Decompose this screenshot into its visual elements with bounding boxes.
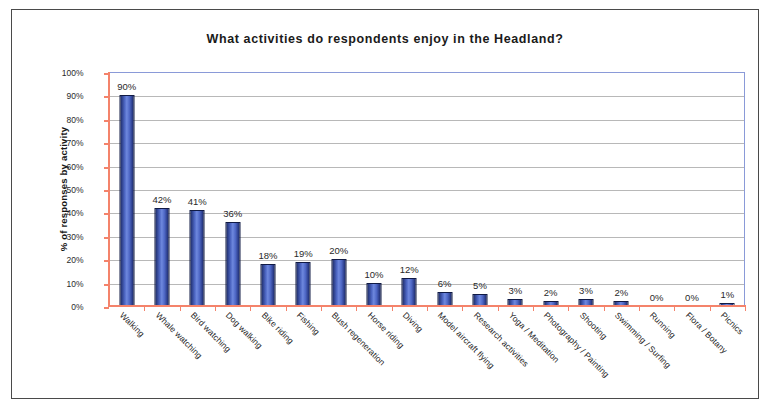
y-tick-label: 100% bbox=[62, 68, 84, 78]
chart-screenshot: What activities do respondents enjoy in … bbox=[0, 0, 770, 417]
plot-area: 100%90%80%70%60%50%40%30%20%10%0% 90%42%… bbox=[109, 72, 745, 306]
x-axis-line bbox=[108, 305, 746, 307]
bar-value-label: 18% bbox=[258, 250, 277, 261]
chart-title: What activities do respondents enjoy in … bbox=[12, 32, 758, 46]
x-category-label: Shooting bbox=[578, 310, 609, 341]
bar-slot[interactable]: 19% bbox=[286, 73, 321, 306]
bar[interactable] bbox=[225, 222, 240, 306]
y-tick-mark bbox=[104, 307, 109, 309]
bar-value-label: 36% bbox=[223, 208, 242, 219]
bar[interactable] bbox=[190, 210, 205, 306]
bar-value-label: 10% bbox=[364, 269, 383, 280]
x-category-label: Running bbox=[648, 310, 678, 340]
bar[interactable] bbox=[119, 95, 134, 306]
bar[interactable] bbox=[296, 262, 311, 306]
x-axis-category-labels: WalkingWhale watchingBird watchingDog wa… bbox=[109, 310, 745, 410]
y-tick-label: 90% bbox=[67, 91, 84, 101]
bar-slot[interactable]: 41% bbox=[180, 73, 215, 306]
y-tick-label: 30% bbox=[67, 232, 84, 242]
bar-value-label: 90% bbox=[117, 81, 136, 92]
bar-value-label: 2% bbox=[614, 287, 628, 298]
x-category-label: Photography / Painting bbox=[542, 310, 611, 379]
bar-value-label: 19% bbox=[294, 248, 313, 259]
bar[interactable] bbox=[260, 264, 275, 306]
bar-slot[interactable]: 20% bbox=[321, 73, 356, 306]
bar[interactable] bbox=[366, 283, 381, 306]
y-tick-label: 50% bbox=[67, 185, 84, 195]
bar-slot[interactable]: 18% bbox=[250, 73, 285, 306]
bar-slot[interactable]: 42% bbox=[144, 73, 179, 306]
x-category-label: Bike riding bbox=[260, 310, 296, 346]
bar-slot[interactable]: 2% bbox=[533, 73, 568, 306]
bar-slot[interactable]: 2% bbox=[604, 73, 639, 306]
bar-slot[interactable]: 0% bbox=[674, 73, 709, 306]
bar-slot[interactable]: 3% bbox=[498, 73, 533, 306]
bar-slot[interactable]: 6% bbox=[427, 73, 462, 306]
y-tick-label: 80% bbox=[67, 115, 84, 125]
bar-slot[interactable]: 1% bbox=[710, 73, 745, 306]
bar-value-label: 1% bbox=[720, 289, 734, 300]
y-tick-label: 20% bbox=[67, 255, 84, 265]
x-category-label: Diving bbox=[401, 310, 425, 334]
bar-slot[interactable]: 0% bbox=[639, 73, 674, 306]
bar-value-label: 5% bbox=[473, 280, 487, 291]
bar-value-label: 2% bbox=[544, 287, 558, 298]
bar-value-label: 42% bbox=[152, 194, 171, 205]
x-category-label: Fishing bbox=[295, 310, 322, 337]
bar-slot[interactable]: 3% bbox=[568, 73, 603, 306]
y-tick-label: 10% bbox=[67, 279, 84, 289]
bar-slot[interactable]: 36% bbox=[215, 73, 250, 306]
bar[interactable] bbox=[437, 292, 452, 306]
bar-slot[interactable]: 90% bbox=[109, 73, 144, 306]
bar[interactable] bbox=[154, 208, 169, 306]
x-category-label: Picnics bbox=[719, 310, 746, 337]
bar[interactable] bbox=[402, 278, 417, 306]
y-tick-label: 0% bbox=[71, 302, 83, 312]
y-tick-label: 60% bbox=[67, 162, 84, 172]
x-category-label: Walking bbox=[118, 310, 147, 339]
bar-value-label: 41% bbox=[188, 196, 207, 207]
bar-value-label: 20% bbox=[329, 245, 348, 256]
bar-value-label: 3% bbox=[579, 285, 593, 296]
y-axis-line bbox=[108, 72, 110, 307]
bar[interactable] bbox=[331, 259, 346, 306]
bar-value-label: 0% bbox=[685, 292, 699, 303]
bar-slot[interactable]: 12% bbox=[392, 73, 427, 306]
chart-outer-frame: What activities do respondents enjoy in … bbox=[11, 9, 759, 399]
bar-value-label: 0% bbox=[650, 292, 664, 303]
bar-value-label: 3% bbox=[508, 285, 522, 296]
bar-value-label: 12% bbox=[400, 264, 419, 275]
y-tick-label: 70% bbox=[67, 138, 84, 148]
plot-wrap: 100%90%80%70%60%50%40%30%20%10%0% 90%42%… bbox=[109, 72, 745, 306]
bar-slot[interactable]: 10% bbox=[356, 73, 391, 306]
bar-slot[interactable]: 5% bbox=[462, 73, 497, 306]
bar-value-label: 6% bbox=[438, 278, 452, 289]
y-tick-label: 40% bbox=[67, 208, 84, 218]
